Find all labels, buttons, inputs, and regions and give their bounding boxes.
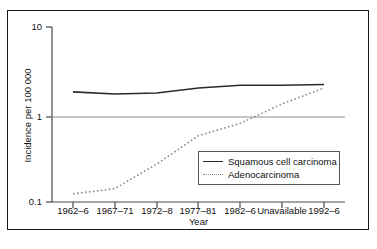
dotted-line-icon: [202, 170, 224, 180]
y-tick-label-10: 10: [4, 22, 42, 32]
x-axis-title: Year: [52, 216, 345, 227]
legend-item-adenocarcinoma: Adenocarcinoma: [202, 168, 335, 181]
figure: 10 1 0.1 Incidence per 100 000 1962–6 19…: [0, 0, 377, 249]
legend: Squamous cell carcinoma Adenocarcinoma: [198, 151, 340, 185]
y-tick-marks: [46, 27, 52, 202]
legend-item-label: Squamous cell carcinoma: [228, 156, 337, 167]
x-tick-label-6: 1992–6: [299, 205, 349, 216]
series-line-squamous-cell-carcinoma: [73, 84, 324, 94]
legend-item-label: Adenocarcinoma: [228, 169, 299, 180]
solid-line-icon: [202, 157, 224, 167]
y-tick-label-0.1: 0.1: [4, 197, 42, 207]
legend-item-squamous-cell-carcinoma: Squamous cell carcinoma: [202, 155, 335, 168]
y-axis-title: Incidence per 100 000: [22, 41, 33, 191]
